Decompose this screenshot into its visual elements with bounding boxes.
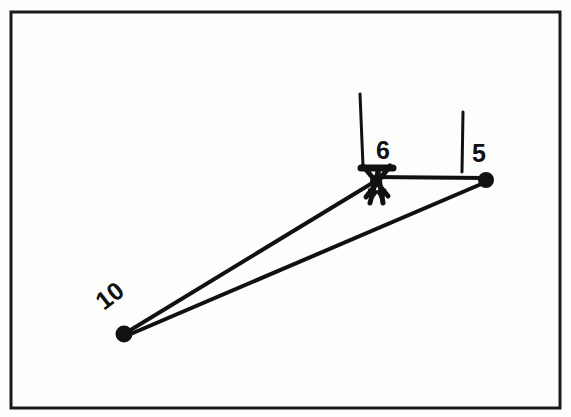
node-10-label: 10: [90, 276, 129, 315]
figure-container: 1065: [0, 0, 571, 417]
node-5-dot: [478, 172, 494, 188]
tick-node-6: [360, 94, 363, 166]
node-6-dot: [370, 176, 380, 186]
node-6-label: 6: [376, 136, 390, 164]
member-10-6: [124, 182, 374, 334]
member-lines-group: [124, 177, 486, 336]
border-frame: [11, 12, 560, 408]
member-6-5: [372, 177, 486, 178]
node-5-label: 5: [472, 139, 486, 167]
member-10-5: [126, 182, 486, 336]
node-10-dot: [116, 326, 133, 343]
node-labels-group: 1065: [90, 136, 486, 315]
tick-node-5: [462, 112, 463, 172]
line-diagram: 1065: [0, 0, 571, 417]
